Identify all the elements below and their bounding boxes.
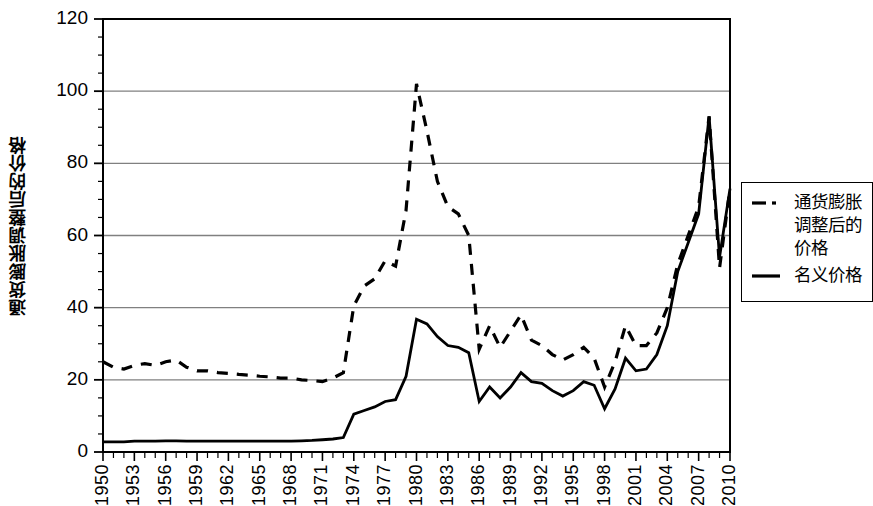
y-axis-ticks: [94, 19, 103, 452]
data-series: [103, 84, 730, 442]
legend-item-nominal[interactable]: 名义价格: [750, 264, 870, 287]
legend-swatch-dashed: [750, 191, 790, 211]
series-line-nominal: [103, 116, 730, 441]
legend: 通货膨胀调整后的 价格 名义价格: [741, 182, 873, 302]
x-axis-ticks: [103, 452, 730, 461]
gridlines: [103, 91, 730, 380]
legend-swatch-solid: [750, 264, 790, 284]
legend-label-inflation-adjusted: 通货膨胀调整后的 价格: [790, 191, 870, 260]
legend-label-nominal: 名义价格: [790, 264, 862, 287]
legend-item-inflation-adjusted[interactable]: 通货膨胀调整后的 价格: [750, 191, 870, 260]
